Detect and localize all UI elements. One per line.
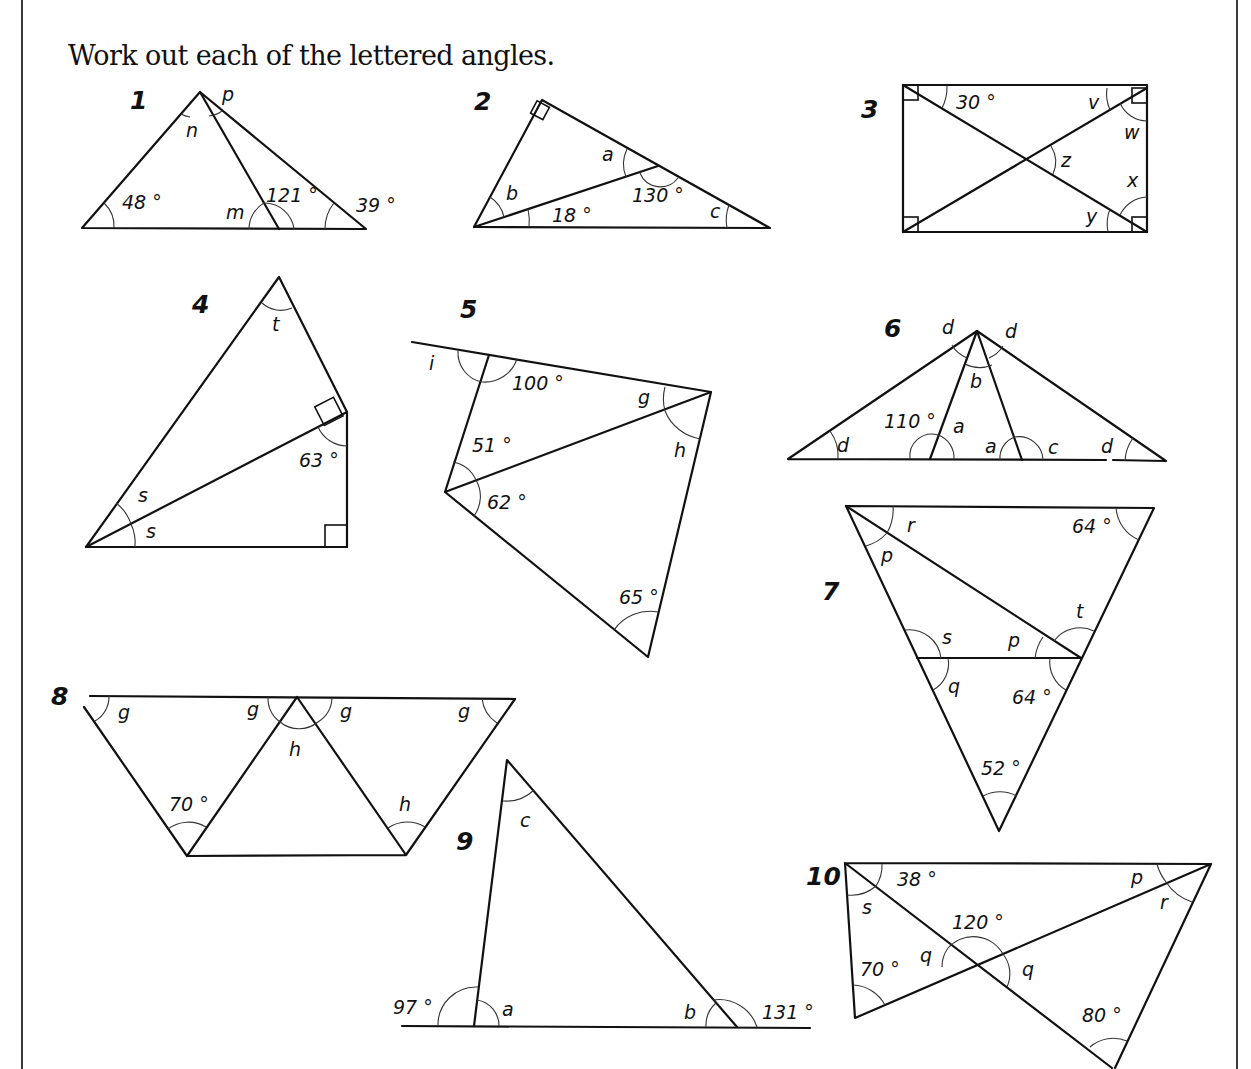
angle-label-a: a (502, 998, 514, 1020)
angle-label-y: y (1085, 205, 1098, 227)
angle-label-v: v (1088, 91, 1100, 113)
angle-label-51: 51 ° (472, 434, 512, 456)
angle-label-x: x (1126, 169, 1139, 191)
problem-2-figure: 2 a b 130 ° 18 ° c (474, 87, 770, 228)
angle-arc (168, 822, 206, 829)
angle-label-110: 110 ° (884, 410, 936, 432)
angle-label-b: b (970, 370, 982, 392)
angle-arc (726, 205, 729, 228)
angle-label-s: s (862, 896, 872, 918)
problem-number: 9 (456, 827, 473, 856)
angle-label-g: g (118, 701, 130, 723)
angle-label-s: s (942, 626, 952, 648)
worksheet-page: Work out each of the lettered angles. 1 … (0, 0, 1251, 1069)
angle-label-t: t (272, 313, 281, 335)
angle-arc (847, 886, 876, 895)
angle-arc (1054, 628, 1094, 641)
base-line (402, 1026, 810, 1028)
angle-label-a: a (602, 143, 614, 165)
angle-label-d: d (942, 316, 955, 338)
angle-label-p: p (1007, 629, 1020, 651)
angle-label-d: d (1101, 435, 1114, 457)
angle-label-d: d (837, 434, 850, 456)
angle-label-64: 64 ° (1012, 686, 1052, 708)
angle-label-q: q (1022, 958, 1034, 980)
angle-label-70: 70 ° (860, 958, 900, 980)
problem-number: 8 (51, 682, 68, 711)
angle-arc (458, 351, 482, 382)
angle-label-64: 64 ° (1072, 515, 1112, 537)
angle-arc (490, 197, 504, 217)
angle-label-d: d (1005, 320, 1018, 342)
angle-label-b: b (506, 182, 518, 204)
diagonal-line (86, 412, 347, 547)
angle-label-s: s (138, 484, 148, 506)
angle-arc (942, 948, 948, 967)
problem-1-figure: 1 p n 48 ° m 121 ° 39 ° (82, 83, 396, 229)
angle-label-h: h (399, 793, 411, 815)
right-angle-marker (325, 525, 347, 547)
diagonal-lines (903, 85, 1147, 232)
angle-arc (1035, 637, 1043, 658)
top-line (90, 696, 515, 699)
angle-label-80: 80 ° (1082, 1004, 1122, 1026)
angle-label-g: g (458, 700, 470, 722)
angle-arc (1003, 954, 1010, 987)
angle-label-a: a (953, 415, 965, 437)
problem-number: 5 (460, 295, 477, 324)
angle-label-p: p (1130, 866, 1143, 888)
angle-arc (933, 658, 949, 690)
angle-label-r: r (1160, 891, 1169, 913)
figures-canvas: 1 p n 48 ° m 121 ° 39 ° 2 (0, 0, 1251, 1069)
angle-arc (280, 722, 318, 729)
angle-label-120: 120 ° (952, 911, 1004, 933)
angle-arc (264, 203, 294, 229)
angle-label-r: r (907, 514, 916, 536)
angle-arc (104, 203, 114, 228)
angle-label-b: b (684, 1001, 696, 1023)
angle-label-g: g (247, 698, 259, 720)
angle-label-70: 70 ° (169, 793, 209, 815)
angle-arc (1116, 508, 1139, 540)
angle-label-m: m (226, 201, 245, 223)
angle-arc (318, 698, 332, 722)
problem-5-figure: 5 i 100 ° g h 51 ° 62 ° 65 ° (412, 295, 711, 657)
angle-label-48: 48 ° (122, 191, 162, 213)
angle-label-62: 62 ° (487, 491, 527, 513)
angle-arc (474, 480, 480, 516)
angle-arc (528, 209, 529, 227)
angle-arc (1120, 103, 1147, 121)
problem-7-figure: 7 r 64 ° p t s p q 64 ° 52 ° (822, 506, 1154, 831)
angle-label-63: 63 ° (299, 449, 339, 471)
angle-arc (262, 303, 292, 310)
problem-number: 10 (806, 862, 841, 891)
angle-label-g: g (638, 386, 650, 408)
angle-arc (477, 1000, 499, 1026)
angle-arc (1107, 209, 1110, 232)
angle-arc (388, 822, 425, 828)
angle-arc (116, 503, 131, 524)
angle-label-c: c (710, 200, 721, 222)
angle-arc (614, 611, 658, 630)
problem-number: 4 (191, 290, 209, 319)
angle-arc (453, 462, 476, 480)
angle-label-i: i (429, 352, 435, 374)
angle-arc (1015, 437, 1043, 460)
angle-arc (938, 435, 954, 459)
problem-6-figure: 6 d d b 110 ° a a c d d (788, 314, 1166, 461)
angle-arc (1107, 88, 1110, 110)
angle-label-q: q (948, 675, 960, 697)
angle-arc (663, 387, 665, 411)
angle-arc (131, 524, 135, 547)
angle-arc (318, 427, 347, 446)
angle-label-30: 30 ° (956, 91, 996, 113)
angle-arc (503, 790, 534, 801)
problem-10-figure: 10 38 ° p s r 120 ° q q 70 ° 80 ° (806, 862, 1211, 1068)
quadrilateral-outline (445, 355, 711, 657)
angle-arc (268, 697, 280, 722)
quadrilateral-outline (86, 277, 347, 547)
angle-arc (438, 987, 478, 1026)
angle-arc (1125, 438, 1133, 461)
angle-arc (1120, 197, 1147, 215)
angle-label-p: p (880, 544, 893, 566)
